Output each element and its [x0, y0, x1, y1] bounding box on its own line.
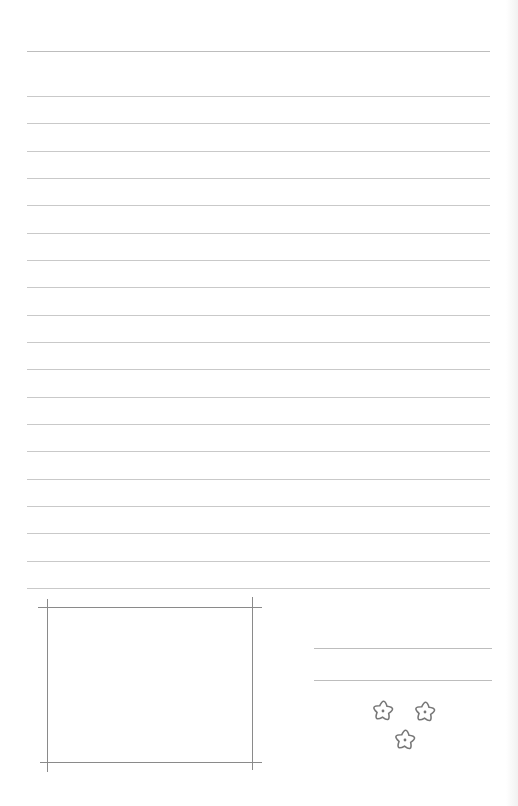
rule-line — [27, 205, 490, 206]
rule-line — [27, 151, 490, 152]
rule-line — [27, 397, 490, 398]
flower-center-icon — [404, 739, 407, 742]
signature-line — [314, 648, 492, 649]
flower-cluster-icon — [360, 690, 450, 760]
photo-frame-right-line — [252, 597, 253, 770]
rule-line — [27, 342, 490, 343]
rule-line — [27, 369, 490, 370]
flower-center-icon — [382, 710, 385, 713]
rule-line — [27, 315, 490, 316]
flower-center-icon — [424, 711, 427, 714]
page-edge-shadow — [506, 0, 518, 806]
photo-frame-bottom-line — [40, 762, 262, 763]
rule-line — [27, 260, 490, 261]
rule-line — [27, 451, 490, 452]
rule-line — [27, 287, 490, 288]
rule-line — [27, 479, 490, 480]
signature-line — [314, 680, 492, 681]
rule-line — [27, 506, 490, 507]
rule-line — [27, 588, 490, 589]
rule-line — [27, 96, 490, 97]
photo-frame-top-line — [38, 607, 262, 608]
rule-line — [27, 561, 490, 562]
rule-line — [27, 123, 490, 124]
rule-line — [27, 533, 490, 534]
header-rule-line — [27, 51, 490, 52]
rule-line — [27, 424, 490, 425]
rule-line — [27, 178, 490, 179]
rule-line — [27, 233, 490, 234]
photo-frame-left-line — [47, 599, 48, 772]
